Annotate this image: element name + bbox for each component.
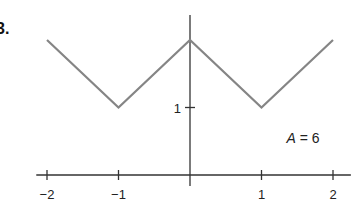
- x-tick-label: 2: [329, 187, 336, 202]
- area-annotation: A = 6: [286, 130, 320, 146]
- x-tick-label: −1: [111, 187, 126, 202]
- y-tick-label: 1: [174, 101, 181, 116]
- function-graph: −2−1121 A = 6: [0, 0, 358, 216]
- x-tick-label: 1: [258, 187, 265, 202]
- annotations: A = 6: [286, 130, 320, 146]
- tick-labels: −2−1121: [40, 101, 337, 203]
- axes: [36, 15, 351, 186]
- x-tick-label: −2: [40, 187, 55, 202]
